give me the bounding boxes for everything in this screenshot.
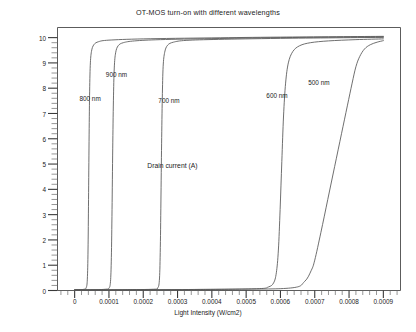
annotation-700-nm: 700 nm — [158, 96, 179, 103]
annotation-800-nm: 800 nm — [79, 95, 100, 102]
y-tick-label: 4 — [22, 186, 46, 193]
y-tick-label: 3 — [22, 211, 46, 218]
annotation-500-nm: 500 nm — [308, 78, 329, 85]
x-tick-label: 0.0006 — [271, 298, 291, 305]
annotation-900-nm: 900 nm — [106, 71, 127, 78]
y-tick-label: 2 — [22, 236, 46, 243]
y-tick-label: 8 — [22, 85, 46, 92]
y-tick-label: 6 — [22, 135, 46, 142]
chart-figure: OT-MOS turn-on with different wavelength… — [0, 0, 416, 332]
y-axis-label: Drain current (A) — [147, 162, 197, 169]
y-tick-label: 0 — [22, 287, 46, 294]
y-tick-label: 5 — [22, 161, 46, 168]
y-tick-label: 7 — [22, 110, 46, 117]
x-tick-label: 0.0004 — [202, 298, 222, 305]
y-tick-label: 10 — [22, 34, 46, 41]
x-axis-label: Light Intensity (W/cm2) — [0, 309, 416, 316]
x-tick-label: 0.0003 — [168, 298, 188, 305]
y-tick-label: 1 — [22, 262, 46, 269]
x-tick-label: 0.0009 — [374, 298, 394, 305]
x-tick-label: 0 — [73, 298, 77, 305]
y-tick-label: 9 — [22, 59, 46, 66]
curve-500-nm — [75, 41, 384, 290]
x-tick-label: 0.0002 — [134, 298, 154, 305]
plot-area — [0, 0, 416, 332]
x-tick-label: 0.0007 — [305, 298, 325, 305]
axis-ticks — [48, 38, 397, 298]
annotation-600-nm: 600 nm — [266, 91, 287, 98]
plot-frame — [58, 28, 401, 291]
x-tick-label: 0.0008 — [339, 298, 359, 305]
x-tick-label: 0.0005 — [236, 298, 256, 305]
x-tick-label: 0.0001 — [99, 298, 119, 305]
